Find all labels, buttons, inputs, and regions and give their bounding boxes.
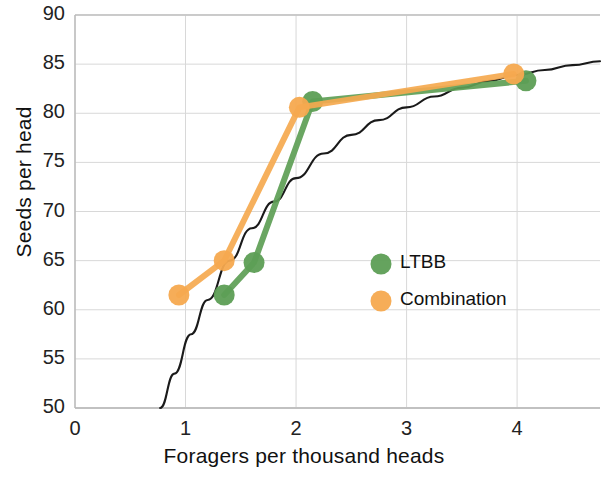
x-tick-label: 0 [55, 417, 95, 440]
y-axis-title: Seeds per head [12, 106, 35, 257]
legend-label-combination: Combination [400, 288, 507, 310]
y-axis-title-wrapper: Seeds per head [12, 62, 36, 302]
data-series-layer [168, 63, 536, 305]
data-point-combination [503, 63, 524, 84]
x-tick-label: 2 [276, 417, 316, 440]
y-tick-label: 50 [13, 395, 65, 418]
legend-label-ltbb: LTBB [400, 251, 446, 273]
y-tick-label: 55 [13, 346, 65, 369]
x-tick-label: 3 [387, 417, 427, 440]
x-tick-label: 4 [497, 417, 537, 440]
y-tick-label: 90 [13, 2, 65, 25]
legend-markers [371, 254, 392, 312]
legend-marker-ltbb [371, 254, 392, 275]
x-axis-title: Foragers per thousand heads [0, 444, 608, 468]
data-point-ltbb [214, 285, 235, 306]
legend-marker-combination [371, 291, 392, 312]
data-point-ltbb [244, 252, 265, 273]
data-point-combination [214, 250, 235, 271]
data-point-combination [289, 97, 310, 118]
chart-plot-area [0, 0, 608, 477]
data-point-combination [168, 285, 189, 306]
x-tick-label: 1 [166, 417, 206, 440]
chart-figure: 50556065707580859001234 Foragers per tho… [0, 0, 608, 477]
